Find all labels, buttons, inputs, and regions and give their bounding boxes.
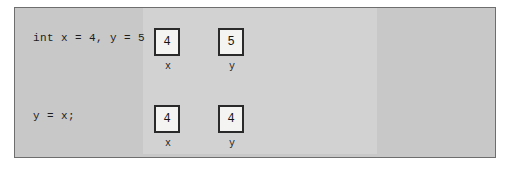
variable-cell-x-row0: 4 x xyxy=(154,28,182,72)
variable-box-label: x xyxy=(154,138,182,149)
variable-box-label: y xyxy=(218,61,246,72)
variable-box-value: 4 xyxy=(154,105,180,133)
diagram-stage: int x = 4, y = 5 4 x 5 y y = x; 4 x 4 y xyxy=(0,0,510,171)
variable-cell-y-row1: 4 y xyxy=(218,105,246,149)
variable-box-value: 5 xyxy=(218,28,244,56)
variable-box-label: x xyxy=(154,61,182,72)
code-statement-declaration: int x = 4, y = 5 xyxy=(33,32,145,44)
diagram-frame: int x = 4, y = 5 4 x 5 y y = x; 4 x 4 y xyxy=(14,7,496,158)
variable-cell-y-row0: 5 y xyxy=(218,28,246,72)
variable-cell-x-row1: 4 x xyxy=(154,105,182,149)
variable-box-value: 4 xyxy=(218,105,244,133)
variable-box-value: 4 xyxy=(154,28,180,56)
code-statement-assignment: y = x; xyxy=(33,110,75,122)
variable-box-label: y xyxy=(218,138,246,149)
